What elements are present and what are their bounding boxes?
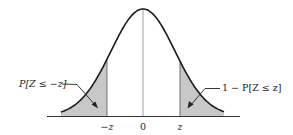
left-leader-line xyxy=(62,84,77,85)
left-area-label: P[Z ≤ −z] xyxy=(18,78,67,89)
z-label: z xyxy=(176,121,183,132)
left-tail-shaded-area xyxy=(61,59,107,116)
zero-label: 0 xyxy=(140,121,146,132)
minus-z-label: −z xyxy=(101,121,115,132)
normal-distribution-figure: P[Z ≤ −z] 1 − P[Z ≤ z] −z 0 z xyxy=(0,0,293,135)
right-area-label: 1 − P[Z ≤ z] xyxy=(222,82,281,93)
